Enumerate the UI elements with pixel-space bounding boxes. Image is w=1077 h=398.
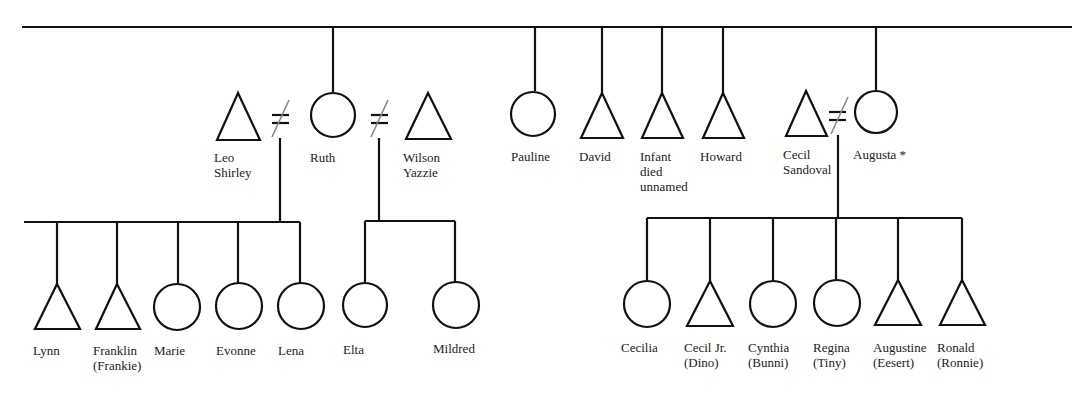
female-symbol-ruth [311,93,355,137]
male-symbol-howard [703,93,744,138]
female-symbol-marie [154,284,200,330]
male-symbol-ronald [940,280,985,325]
label-pauline: Pauline [511,149,550,164]
female-symbol-lena [278,283,324,329]
label-elta: Elta [343,342,364,357]
male-symbol-cecil-jr [687,281,733,326]
female-symbol-regina [814,280,860,326]
label-infant-died-unnamed: Infantdiedunnamed [640,149,688,194]
label-lynn: Lynn [33,343,60,358]
female-symbol-augusta [855,91,897,133]
label-regina: Regina(Tiny) [813,340,850,370]
label-ruth: Ruth [310,150,335,165]
label-david: David [579,149,611,164]
label-leo-shirley: LeoShirley [214,150,252,180]
male-symbol-cecil [786,91,827,136]
divorce-slash-cecil-augusta [831,97,848,134]
male-symbol-infant [642,93,683,138]
label-cecilia: Cecilia [621,340,658,355]
male-symbol-augustine [875,280,921,325]
label-mildred: Mildred [433,341,475,356]
female-symbol-mildred [433,282,479,328]
label-franklin: Franklin(Frankie) [93,343,141,373]
label-ronald: Ronald(Ronnie) [937,340,983,370]
female-symbol-pauline [511,92,555,136]
label-evonne: Evonne [216,343,256,358]
female-symbol-cynthia [750,281,796,327]
label-cecil-sandoval: CecilSandoval [783,147,831,177]
male-symbol-lynn [35,284,80,329]
divorce-slash-leo-ruth [272,100,289,137]
male-symbol-leo [217,93,260,140]
female-symbol-evonne [216,283,262,329]
male-symbol-franklin [96,284,140,329]
label-lena: Lena [278,343,304,358]
divorce-slash-ruth-wilson [371,100,388,137]
label-cecil-jr: Cecil Jr.(Dino) [684,340,727,370]
kinship-diagram [0,0,1077,398]
label-augusta: Augusta * [853,147,906,162]
label-wilson-yazzie: WilsonYazzie [403,150,440,180]
label-augustine: Augustine(Eesert) [873,340,926,370]
label-marie: Marie [154,343,185,358]
label-cynthia: Cynthia(Bunni) [748,340,789,370]
female-symbol-cecilia [624,281,670,327]
label-howard: Howard [700,149,742,164]
female-symbol-elta [343,283,387,327]
male-symbol-david [581,93,623,138]
male-symbol-wilson [406,93,451,139]
